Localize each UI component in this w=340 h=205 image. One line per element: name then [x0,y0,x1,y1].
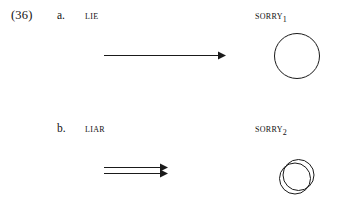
source-label-a: LIE [85,10,98,22]
source-label-b: LIAR [85,123,105,135]
single-circle-diagram-a [268,28,326,86]
target-label-b-subscript: 2 [283,128,287,137]
item-letter-a: a. [57,10,65,22]
linguistics-example-figure: (36) a. LIE SORRY1 b. LIAR SORRY2 [0,0,340,205]
target-label-b-text: SORRY [255,122,283,134]
target-label-b: SORRY2 [255,123,287,135]
example-number: (36) [11,9,33,22]
target-label-a-subscript: 1 [283,15,287,24]
double-circle-diagram-b [274,154,320,200]
item-letter-b: b. [57,123,66,135]
target-label-a-text: SORRY [255,9,283,21]
single-arrow-a [100,44,226,66]
double-arrow-b [100,158,170,180]
target-label-a: SORRY1 [255,10,287,22]
